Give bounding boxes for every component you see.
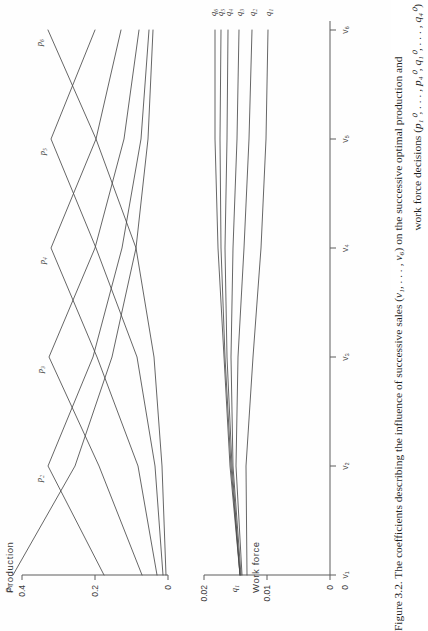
curve-label-p5: p₅: [37, 148, 47, 156]
panel-production: Production 0.4 0.2 0: [0, 0, 176, 631]
curve-p4: [51, 30, 157, 575]
curve-label-q2-end: q₂: [247, 9, 257, 16]
xtick-label-v1: v₁: [340, 571, 350, 578]
caption-text-a: The coefficients describing the influenc…: [392, 298, 404, 579]
caption-v-list: v₁, . . . , v₆: [392, 251, 404, 298]
figure-number: Figure 3.2.: [392, 581, 404, 631]
caption-p-list: p₁⁰, . . . , p₄⁰, q₁⁰, . . . , q₄⁰: [411, 8, 423, 129]
curve-p2: [48, 30, 149, 575]
xaxis-origin-label: 0: [340, 585, 350, 590]
caption-line-1: Figure 3.2. The coefficients describing …: [389, 0, 408, 631]
xtick-label-v2: v₂: [340, 462, 350, 470]
ytick-label-production-1: 0.2: [90, 585, 100, 597]
xtick-label-v5: v₅: [340, 135, 350, 143]
caption-text-c: work force decisions (: [411, 129, 423, 231]
ytick-label-work-force-0: 0.02: [199, 585, 209, 602]
curve-p5: [51, 30, 163, 575]
chart-production: 0.4 0.2 0 p₁ p₂ p₃ p₄ p₅ p₆: [0, 0, 176, 631]
curve-label-p6: p₆: [34, 39, 44, 47]
curve-label-p2: p₂: [34, 475, 44, 483]
curve-label-q6-end: q₆: [208, 9, 218, 16]
x-axis: [330, 21, 336, 575]
ytick-label-work-force-2: 0: [325, 585, 335, 590]
xtick-label-v4: v₄: [340, 244, 350, 252]
ytick-label-production-2: 0: [163, 585, 173, 590]
xtick-label-v6: v₆: [340, 26, 350, 34]
ytick-label-work-force-1: 0.01: [262, 585, 272, 602]
panel-title-work-force: Work force: [250, 541, 261, 593]
curve-label-q1: q₁: [229, 585, 239, 592]
figure-caption: Figure 3.2. The coefficients describing …: [389, 0, 428, 631]
y-axis-work-force: [204, 575, 330, 580]
xtick-label-v3: v₃: [340, 353, 350, 361]
curve-p3: [49, 30, 142, 575]
y-axis-production: [22, 575, 168, 580]
curve-q2: [236, 30, 252, 575]
caption-text-d: ): [411, 4, 423, 8]
panel-title-production: Production: [4, 542, 15, 593]
curve-label-q3-end: q₃: [234, 9, 244, 16]
caption-text-b: ) on the successive optimal production a…: [392, 57, 404, 252]
curve-label-p4: p₄: [37, 257, 47, 265]
curve-label-q1-end: q₁: [263, 9, 273, 16]
curve-p1: [13, 30, 153, 575]
curve-p6: [48, 30, 166, 575]
chart-work-force: 0.02 0.01 0 v₁ v₂ v₃ v₄ v₅ v₆: [190, 0, 390, 631]
panel-work-force: Work force 0.02 0.01 0: [190, 0, 390, 631]
curve-q5: [220, 30, 240, 575]
ytick-label-production-0: 0.4: [17, 585, 27, 597]
curve-label-p3: p₃: [35, 366, 45, 374]
curve-q1: [246, 30, 268, 575]
caption-line-2: work force decisions (p₁⁰, . . . , p₄⁰, …: [408, 0, 427, 631]
